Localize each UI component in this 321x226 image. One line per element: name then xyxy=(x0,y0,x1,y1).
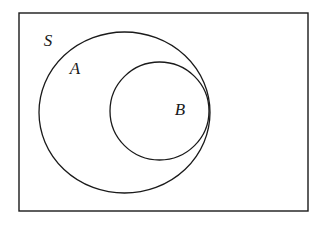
venn-diagram-figure: S A B xyxy=(0,0,321,226)
set-b-circle xyxy=(110,62,209,160)
universal-set-rectangle xyxy=(19,13,308,211)
venn-diagram-canvas: S A B xyxy=(0,0,321,226)
universal-set-label-s: S xyxy=(44,31,53,50)
set-b-label: B xyxy=(175,100,186,119)
set-a-label: A xyxy=(69,59,81,78)
